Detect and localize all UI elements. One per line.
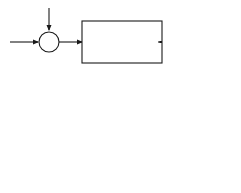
summing-junction [39,32,59,52]
top-diagram [10,8,162,63]
block-diagram [0,0,241,193]
forward-block [82,21,162,63]
